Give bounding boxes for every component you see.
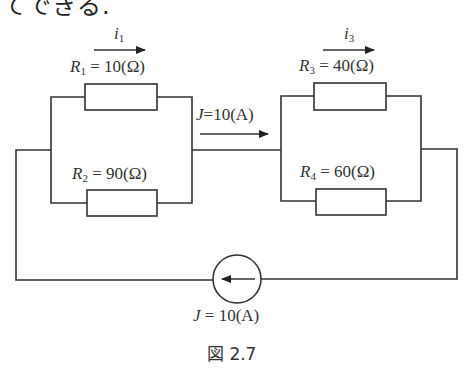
label-r3: R3 = 40(Ω): [299, 56, 374, 76]
label-r4: R4 = 60(Ω): [300, 162, 375, 182]
label-r1: R1 = 10(Ω): [70, 57, 145, 77]
label-j-middle: J=10(A): [196, 105, 254, 125]
resistor-r4: [316, 189, 386, 215]
label-i3: i3: [344, 24, 354, 44]
resistor-r2: [87, 190, 157, 216]
label-r2: R2 = 90(Ω): [72, 164, 147, 184]
resistor-r1: [85, 84, 157, 110]
resistor-r3: [314, 83, 386, 110]
label-i1: i1: [114, 24, 124, 44]
label-source: J = 10(A): [193, 306, 259, 326]
figure-caption: 図 2.7: [207, 340, 256, 365]
